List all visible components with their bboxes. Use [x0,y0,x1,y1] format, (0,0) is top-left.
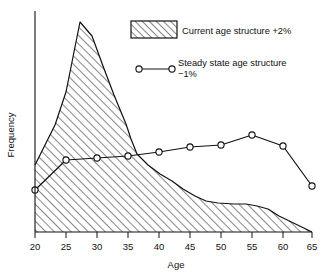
data-point-age-25 [63,157,69,163]
data-point-age-35 [125,153,131,159]
plot-area [32,22,315,232]
x-tick-label-6: 50 [216,241,227,252]
chart-legend: Current age structure +2% Steady state a… [131,21,291,79]
age-structure-chart: 20 25 30 35 40 45 50 55 60 65 Age Freque… [0,0,330,276]
data-point-age-65 [309,183,315,189]
x-tick-label-4: 40 [154,241,165,252]
data-point-age-50 [218,142,224,148]
current-age-structure-area [35,22,312,232]
chart-container: 20 25 30 35 40 45 50 55 60 65 Age Freque… [0,0,330,276]
x-tick-label-0: 20 [30,241,41,252]
data-point-age-60 [280,143,286,149]
x-tick-label-2: 30 [92,241,103,252]
x-tick-label-3: 35 [123,241,134,252]
data-point-age-40 [156,149,162,155]
x-tick-label-9: 65 [307,241,318,252]
x-axis-tick-labels: 20 25 30 35 40 45 50 55 60 65 [30,241,318,252]
data-point-age-45 [187,144,193,150]
data-point-age-55 [249,132,255,138]
y-axis-title: Frequency [5,112,16,157]
legend-label-steady-state-line1: Steady state age structure [178,58,287,68]
x-tick-label-1: 25 [61,241,72,252]
legend-label-current: Current age structure +2% [182,26,291,36]
legend-entry-steady-state[interactable]: Steady state age structure −1% [136,58,287,79]
legend-entry-current[interactable]: Current age structure +2% [131,21,291,38]
legend-marker-right [169,66,175,72]
x-tick-label-5: 45 [185,241,196,252]
x-axis-title: Age [168,259,185,270]
x-axis-ticks [35,232,312,238]
data-point-age-30 [94,155,100,161]
x-tick-label-8: 60 [278,241,289,252]
legend-marker-left [136,66,142,72]
legend-label-steady-state-line2: −1% [178,69,197,79]
legend-swatch-hatch [131,21,177,38]
x-tick-label-7: 55 [247,241,258,252]
